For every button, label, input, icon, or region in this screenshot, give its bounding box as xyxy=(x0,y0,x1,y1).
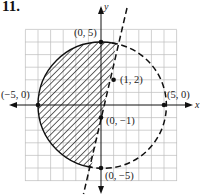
x-axis-arrow-left-icon xyxy=(9,102,17,108)
label-neg5-0: (−5, 0) xyxy=(1,89,30,101)
label-0-neg1: (0, −1) xyxy=(106,115,135,127)
point-5-0 xyxy=(162,103,167,108)
y-axis-label: y xyxy=(103,1,109,12)
point-0-5 xyxy=(99,40,104,45)
y-axis-arrow-down-icon xyxy=(98,186,104,194)
point-1-2 xyxy=(111,78,116,83)
point-0-neg1 xyxy=(99,115,104,120)
graph: y x (0, 5) (−5, 0) (5, 0) (0, −5) (1, 2)… xyxy=(0,0,200,196)
label-0-neg5: (0, −5) xyxy=(105,170,134,182)
label-5-0: (5, 0) xyxy=(167,89,190,101)
x-axis-arrow-right-icon xyxy=(185,102,193,108)
x-axis-label: x xyxy=(194,99,200,110)
point-0-neg5 xyxy=(99,166,104,171)
label-1-2: (1, 2) xyxy=(120,74,143,86)
label-0-5: (0, 5) xyxy=(74,27,97,39)
point-neg5-0 xyxy=(36,103,41,108)
